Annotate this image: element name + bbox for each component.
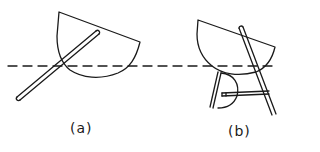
panel-label-b: (b) [228, 123, 251, 139]
hull-section-a [57, 12, 140, 77]
leeboard-b [210, 72, 238, 108]
rod-b [239, 26, 276, 115]
cross-brace-b [222, 91, 269, 96]
panel-label-a: (a) [70, 120, 93, 136]
